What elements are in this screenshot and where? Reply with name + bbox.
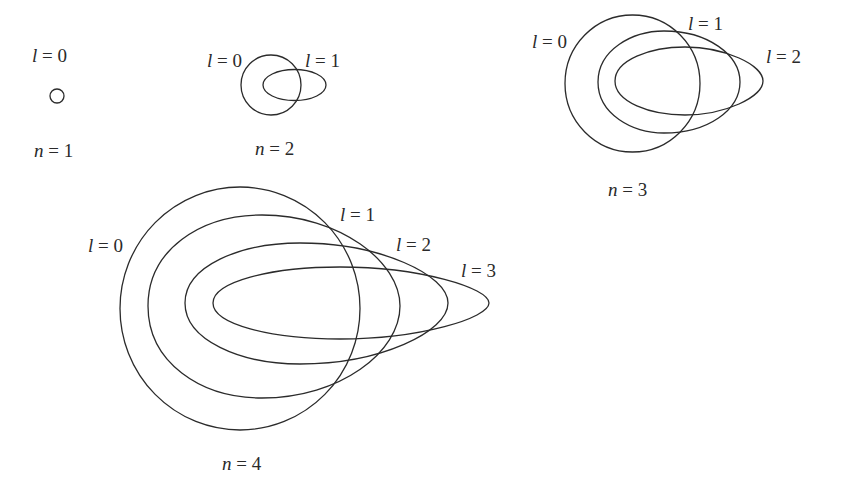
label-n4-l3: l = 3: [461, 261, 496, 280]
label-eq: = 3: [618, 179, 648, 200]
panel-n3-orbits: [565, 15, 763, 152]
label-eq: = 0: [212, 50, 242, 71]
orbit-n3-l1: [598, 31, 740, 133]
orbit-n4-l2: [185, 243, 448, 364]
label-n4-l1: l = 1: [340, 205, 375, 224]
label-var: n: [255, 138, 265, 159]
label-eq: = 1: [44, 140, 74, 161]
label-eq: = 1: [693, 13, 723, 34]
label-n1-l0: l = 0: [32, 46, 67, 65]
label-eq: = 1: [310, 50, 340, 71]
label-n1: n = 1: [34, 141, 73, 160]
label-n4: n = 4: [222, 454, 261, 473]
panel-n4-orbits: [120, 187, 489, 430]
label-n3-l1: l = 1: [688, 14, 723, 33]
orbit-n2-l1: [263, 70, 326, 101]
label-eq: = 4: [232, 453, 262, 474]
label-n4-l2: l = 2: [396, 235, 431, 254]
panel-n1-orbits: [50, 89, 64, 103]
orbit-n3-l2: [615, 47, 763, 115]
label-n2: n = 2: [255, 139, 294, 158]
label-eq: = 2: [401, 234, 431, 255]
label-var: n: [34, 140, 44, 161]
label-eq: = 3: [466, 260, 496, 281]
label-eq: = 2: [771, 46, 801, 67]
orbit-n4-l0: [120, 187, 360, 430]
orbit-n2-l0: [241, 55, 301, 115]
label-eq: = 0: [537, 31, 567, 52]
label-eq: = 2: [265, 138, 295, 159]
label-eq: = 0: [37, 45, 67, 66]
orbital-diagram: l = 0 n = 1 l = 0 l = 1 n = 2 l = 0 l = …: [0, 0, 841, 486]
label-n3: n = 3: [608, 180, 647, 199]
label-eq: = 1: [345, 204, 375, 225]
label-n2-l1: l = 1: [305, 51, 340, 70]
label-n3-l0: l = 0: [532, 32, 567, 51]
label-var: n: [222, 453, 232, 474]
label-var: n: [608, 179, 618, 200]
label-eq: = 0: [93, 235, 123, 256]
label-n2-l0: l = 0: [207, 51, 242, 70]
label-n3-l2: l = 2: [766, 47, 801, 66]
label-n4-l0: l = 0: [88, 236, 123, 255]
orbit-n1-l0: [50, 89, 64, 103]
